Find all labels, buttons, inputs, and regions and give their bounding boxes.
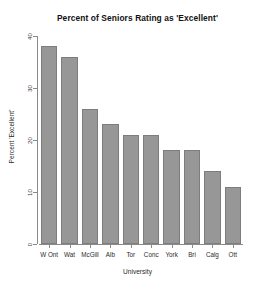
- bar: [123, 135, 139, 244]
- x-axis-tick: [131, 245, 132, 248]
- bar: [225, 187, 241, 244]
- y-axis-tick-label: 30: [26, 83, 33, 93]
- bar: [102, 124, 118, 244]
- x-axis-tick-label: Tor: [126, 251, 135, 258]
- x-axis-tick-label: Ott: [229, 251, 237, 258]
- bars-container: [39, 36, 243, 244]
- y-axis-tick: [33, 36, 37, 37]
- x-axis-tick-label: McGill: [81, 251, 99, 258]
- x-axis-title: University: [0, 268, 275, 275]
- x-axis-tick: [233, 245, 234, 248]
- x-axis-tick: [172, 245, 173, 248]
- chart-figure: Percent of Seniors Rating as 'Excellent'…: [0, 0, 275, 292]
- x-axis-tick: [212, 245, 213, 248]
- y-axis-tick: [33, 140, 37, 141]
- bar: [143, 135, 159, 244]
- x-axis-tick: [90, 245, 91, 248]
- chart-title: Percent of Seniors Rating as 'Excellent': [0, 13, 275, 23]
- y-axis-title: Percent 'Excellent': [8, 97, 15, 177]
- x-axis-tick-label: York: [165, 251, 177, 258]
- y-axis-tick: [33, 192, 37, 193]
- x-axis-tick: [151, 245, 152, 248]
- bar: [204, 171, 220, 244]
- y-axis-tick-label: 40: [26, 31, 33, 41]
- x-axis-tick-label: Alb: [106, 251, 115, 258]
- bar: [41, 46, 57, 244]
- y-axis-tick-label: 10: [26, 187, 33, 197]
- x-axis-tick-label: Conc: [144, 251, 159, 258]
- y-axis-line: [37, 36, 38, 244]
- x-axis-tick: [192, 245, 193, 248]
- bar: [82, 109, 98, 244]
- bar: [184, 150, 200, 244]
- y-axis-tick: [33, 88, 37, 89]
- y-axis-tick-label: 20: [26, 135, 33, 145]
- y-axis-tick-label: 0: [26, 239, 33, 249]
- bar: [163, 150, 179, 244]
- x-axis-tick-label: Wat: [64, 251, 75, 258]
- bar: [61, 57, 77, 244]
- x-axis-tick-label: W Ont: [40, 251, 58, 258]
- x-axis-tick: [70, 245, 71, 248]
- x-axis-tick-label: Calg: [206, 251, 219, 258]
- x-axis-tick-label: Bri: [188, 251, 196, 258]
- y-axis-tick: [33, 244, 37, 245]
- x-axis-tick: [49, 245, 50, 248]
- x-axis-tick: [110, 245, 111, 248]
